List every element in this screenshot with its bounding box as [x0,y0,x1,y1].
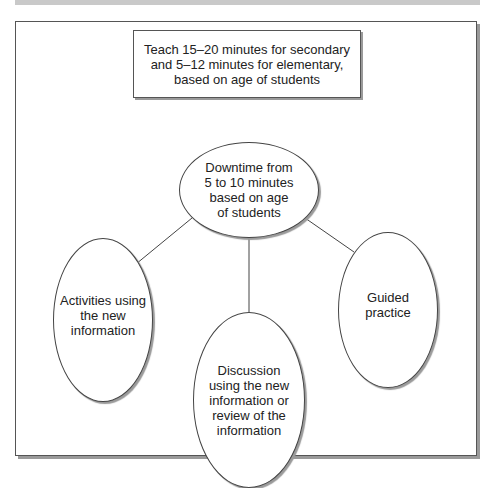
activities-node: Activities using the new information [53,238,153,402]
activities-text: Activities using the new information [60,293,146,338]
teaching-time-box: Teach 15–20 minutes for secondary and 5–… [133,30,361,98]
downtime-node: Downtime from 5 to 10 minutes based on a… [179,142,319,238]
discussion-node: Discussion using the new information or … [193,312,305,488]
teaching-time-text: Teach 15–20 minutes for secondary and 5–… [144,42,350,87]
guided-practice-text: Guided practice [343,290,433,320]
edge-central-left [136,218,192,264]
downtime-text: Downtime from 5 to 10 minutes based on a… [205,160,294,220]
edge-central-right [305,218,354,252]
guided-practice-node: Guided practice [338,232,438,388]
discussion-text: Discussion using the new information or … [209,363,289,438]
